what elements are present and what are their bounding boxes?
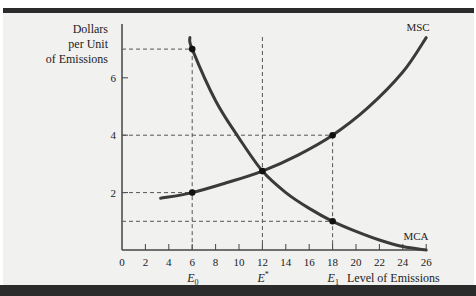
- x-axis-label: Level of Emissions: [347, 271, 440, 285]
- e0-label: E0: [186, 271, 198, 287]
- mca-curve: [190, 38, 427, 250]
- msc-curve: [161, 38, 427, 199]
- x-tick-label: 26: [421, 256, 433, 268]
- data-point: [329, 218, 336, 225]
- x-tick-label: 12: [257, 256, 268, 268]
- data-point: [189, 46, 196, 53]
- estar-label: E*: [256, 270, 268, 285]
- y-tick-label: 4: [111, 129, 117, 141]
- data-point: [329, 132, 336, 139]
- msc-label: MSC: [406, 21, 429, 33]
- e1-label: E1: [327, 271, 339, 287]
- x-tick-label: 20: [351, 256, 363, 268]
- x-tick-label: 8: [213, 256, 219, 268]
- x-tick-label: 18: [327, 256, 339, 268]
- data-point: [259, 168, 266, 175]
- y-tick-label: 2: [111, 187, 117, 199]
- x-tick-label: 10: [234, 256, 246, 268]
- x-tick-label: 22: [374, 256, 385, 268]
- chart-svg: 02468101214161820222426246MSCMCAE0E*E1Le…: [0, 0, 476, 296]
- y-tick-label: 6: [111, 72, 117, 84]
- x-tick-label: 4: [166, 256, 172, 268]
- data-point: [189, 189, 196, 196]
- x-tick-label: 16: [304, 256, 316, 268]
- x-tick-label: 0: [119, 256, 125, 268]
- x-tick-label: 14: [280, 256, 292, 268]
- x-tick-label: 2: [143, 256, 149, 268]
- mca-label: MCA: [403, 230, 428, 242]
- x-tick-label: 6: [189, 256, 195, 268]
- x-tick-label: 24: [397, 256, 409, 268]
